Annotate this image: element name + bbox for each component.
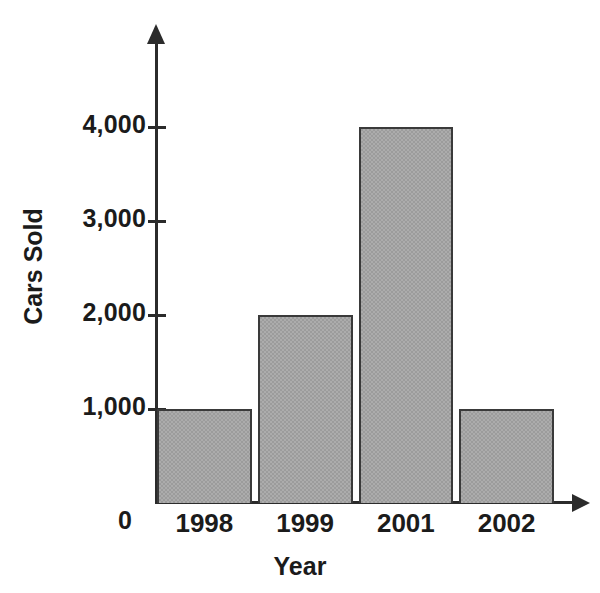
y-axis-tick-label: 4,000 (46, 110, 146, 139)
bar-2001 (359, 127, 454, 503)
x-axis-tick-label-1999: 1999 (258, 508, 353, 539)
y-axis-tick-label: 2,000 (46, 298, 146, 327)
y-axis-origin-label: 0 (118, 506, 132, 535)
y-axis-tick-label: 3,000 (46, 204, 146, 233)
x-axis-tick-label-1998: 1998 (157, 508, 252, 539)
x-axis-tick-label-2002: 2002 (459, 508, 554, 539)
bar-2002 (459, 409, 554, 503)
y-axis-arrow-icon (147, 24, 165, 44)
x-axis-title: Year (0, 552, 600, 581)
x-axis-arrow-icon (572, 494, 590, 512)
y-axis-title: Cars Sold (19, 187, 48, 347)
y-axis-tick-label: 1,000 (46, 392, 146, 421)
y-axis-tick-mark (148, 220, 166, 223)
bar-chart: 1,0002,0003,0004,000 0 1998199920012002 … (0, 0, 600, 593)
bar-1999 (258, 315, 353, 503)
x-axis-tick-label-2001: 2001 (359, 508, 454, 539)
y-axis-tick-mark (148, 126, 166, 129)
bar-1998 (157, 409, 252, 503)
y-axis-tick-mark (148, 314, 166, 317)
